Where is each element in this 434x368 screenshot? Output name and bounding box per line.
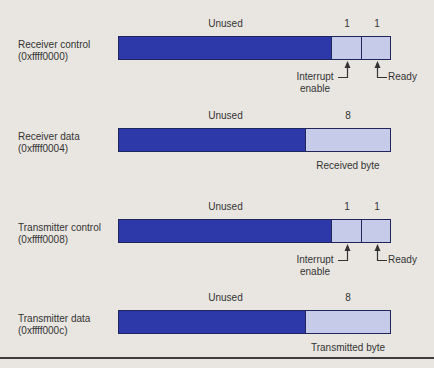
ready-label: Ready	[388, 71, 417, 83]
register-address: (0xffff0000)	[18, 51, 90, 63]
interrupt-enable-label-line1: Interrupt	[284, 71, 346, 83]
unused-field	[119, 220, 331, 242]
register-bar	[118, 128, 391, 152]
unused-label: Unused	[117, 18, 334, 30]
byte-field-label: Received byte	[288, 160, 408, 172]
ready-field	[361, 37, 390, 59]
interrupt-enable-label: Interrupt enable	[284, 254, 346, 278]
register-name-block: Transmitter data (0xffff000c)	[18, 313, 90, 337]
unused-label: Unused	[117, 110, 334, 122]
bit-width-label: 1	[367, 201, 387, 213]
ready-field	[361, 220, 390, 242]
interrupt-enable-label-line2: enable	[284, 266, 346, 278]
ready-label: Ready	[388, 254, 417, 266]
transmitted-byte-field	[305, 311, 390, 333]
register-address: (0xffff0004)	[18, 143, 80, 155]
register-name-block: Transmitter control (0xffff0008)	[18, 222, 101, 246]
received-byte-field	[305, 129, 390, 151]
register-address: (0xffff000c)	[18, 325, 90, 337]
unused-field	[119, 37, 331, 59]
unused-field	[119, 311, 305, 333]
register-name-block: Receiver data (0xffff0004)	[18, 131, 80, 155]
register-name: Receiver control	[18, 39, 90, 51]
bit-width-label: 1	[367, 18, 387, 30]
register-name: Receiver data	[18, 131, 80, 143]
unused-label: Unused	[117, 201, 334, 213]
interrupt-enable-label-line1: Interrupt	[284, 254, 346, 266]
memory-mapped-io-register-figure: Receiver control (0xffff0000) Unused 1 1…	[0, 0, 434, 368]
bit-width-label: 1	[337, 201, 357, 213]
register-bar	[118, 219, 391, 243]
register-bar	[118, 36, 391, 60]
byte-width-label: 8	[305, 110, 391, 122]
interrupt-enable-label-line2: enable	[284, 83, 346, 95]
bottom-rule-divider	[0, 357, 434, 359]
register-name: Transmitter control	[18, 222, 101, 234]
interrupt-enable-field	[331, 37, 361, 59]
register-address: (0xffff0008)	[18, 234, 101, 246]
register-name: Transmitter data	[18, 313, 90, 325]
interrupt-enable-field	[331, 220, 361, 242]
register-bar	[118, 310, 391, 334]
interrupt-enable-label: Interrupt enable	[284, 71, 346, 95]
register-name-block: Receiver control (0xffff0000)	[18, 39, 90, 63]
byte-width-label: 8	[305, 292, 391, 304]
unused-field	[119, 129, 305, 151]
unused-label: Unused	[117, 292, 334, 304]
byte-field-label: Transmitted byte	[288, 342, 408, 354]
bit-width-label: 1	[337, 18, 357, 30]
